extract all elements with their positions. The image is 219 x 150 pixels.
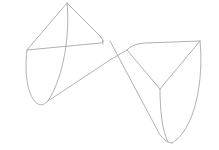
left-lobe-inner-curve bbox=[48, 3, 68, 101]
line-drawing-canvas bbox=[0, 0, 219, 150]
left-lobe-apex-to-right bbox=[67, 3, 103, 44]
left-lobe-rim bbox=[27, 40, 103, 50]
left-lobe-bottom-to-right bbox=[48, 60, 110, 101]
right-lobe-outer-curve bbox=[172, 41, 201, 143]
two-lobe-wireframe-sketch bbox=[0, 0, 219, 150]
left-lobe-outer-curve bbox=[26, 50, 48, 105]
apex-diagonal-through bbox=[110, 41, 172, 143]
right-lobe-center-down bbox=[160, 89, 168, 142]
right-lobe-center-to-right bbox=[160, 41, 200, 89]
left-lobe-apex-to-left-edge bbox=[27, 3, 67, 50]
